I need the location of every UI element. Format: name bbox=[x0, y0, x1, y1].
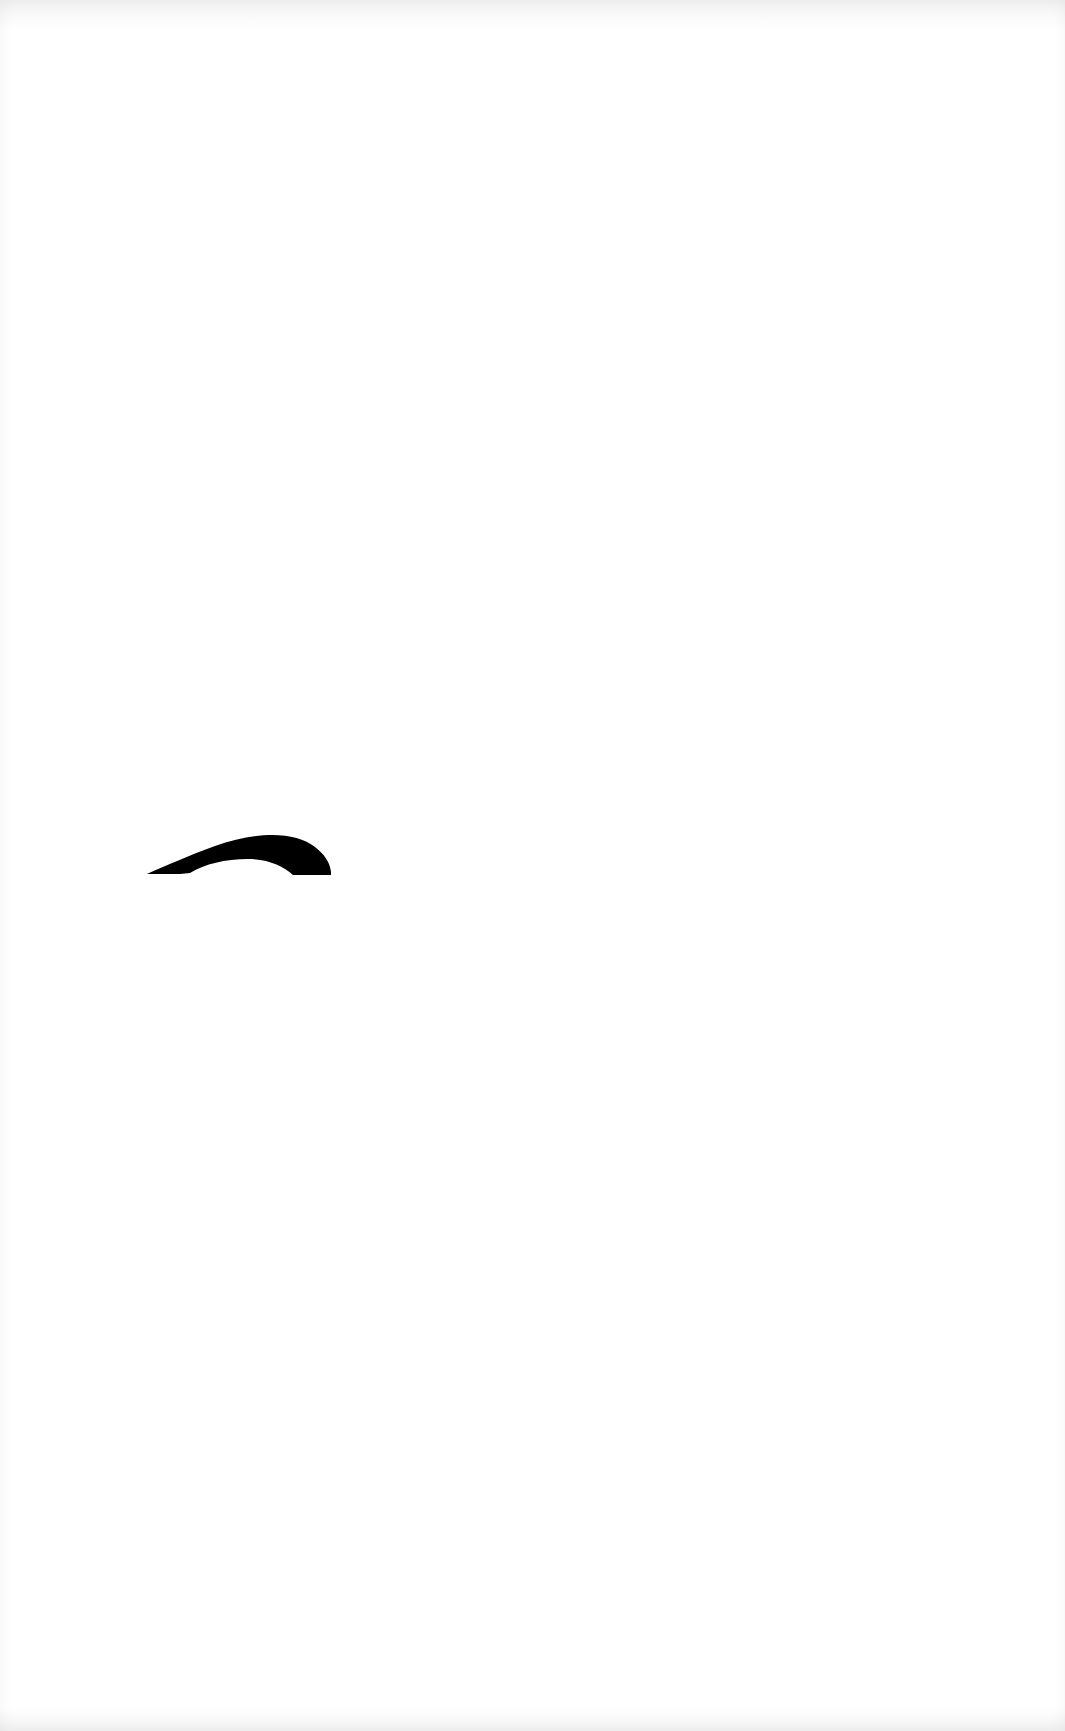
blank-page bbox=[0, 0, 1065, 1731]
eyebrow-arc-stroke bbox=[147, 835, 331, 875]
drawing-canvas bbox=[0, 0, 1065, 1731]
